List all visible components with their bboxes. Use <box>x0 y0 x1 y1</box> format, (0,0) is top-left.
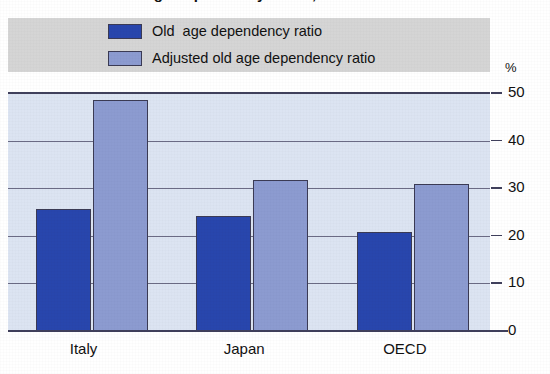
bar-japan-series-1 <box>196 216 251 332</box>
y-tick-label: 20 <box>508 226 525 243</box>
y-tick-mark <box>491 140 502 142</box>
chart-legend: Old age dependency ratio Adjusted old ag… <box>8 18 490 72</box>
legend-label: Adjusted old age dependency ratio <box>152 51 375 66</box>
y-tick-mark <box>491 330 502 332</box>
y-axis-unit-label: % <box>505 60 517 75</box>
y-tick-mark <box>491 235 502 237</box>
legend-item-old-age-dependency-ratio: Old age dependency ratio <box>8 18 490 45</box>
plot-area <box>8 92 490 332</box>
category-label-italy: Italy <box>70 340 98 357</box>
y-tick-label: 10 <box>508 273 525 290</box>
y-tick-label: 40 <box>508 131 525 148</box>
legend-label: Old age dependency ratio <box>152 24 322 39</box>
x-axis-line <box>8 330 508 332</box>
bar-oecd-series-1 <box>357 232 412 332</box>
y-tick-mark <box>491 282 502 284</box>
y-tick-label: 30 <box>508 178 525 195</box>
y-tick-mark <box>491 92 502 94</box>
chart-title: Old age dependency ratios, 2000 <box>0 0 470 2</box>
legend-item-adjusted-old-age-dependency-ratio: Adjusted old age dependency ratio <box>8 45 490 72</box>
bar-italy-series-2 <box>93 100 148 332</box>
y-tick-label: 50 <box>508 83 525 100</box>
bar-oecd-series-2 <box>414 184 469 332</box>
legend-swatch-icon-light <box>108 51 142 66</box>
gridline <box>8 141 490 142</box>
category-label-oecd: OECD <box>383 340 426 357</box>
legend-swatch-icon-dark <box>108 24 142 39</box>
category-label-japan: Japan <box>224 340 265 357</box>
bar-italy-series-1 <box>36 209 91 332</box>
y-tick-mark <box>491 187 502 189</box>
y-tick-label: 0 <box>508 321 516 338</box>
bar-japan-series-2 <box>253 180 308 332</box>
